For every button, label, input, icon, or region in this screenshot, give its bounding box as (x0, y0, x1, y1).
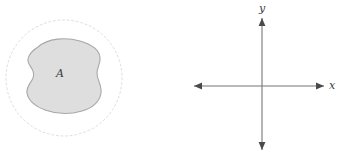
x-axis-left-arrowhead (194, 83, 202, 90)
y-axis-top-arrowhead (259, 18, 266, 26)
region-diagram: A (6, 20, 122, 136)
coordinate-axes: x y (194, 2, 336, 150)
x-axis-right-arrowhead (316, 83, 324, 90)
x-axis-label: x (329, 79, 336, 92)
y-axis-label: y (258, 2, 266, 15)
figure-container: A x y (0, 0, 339, 163)
region-blob (27, 39, 101, 114)
region-label-a: A (55, 67, 64, 80)
figure-canvas: A x y (0, 0, 339, 163)
y-axis-bottom-arrowhead (259, 142, 266, 150)
